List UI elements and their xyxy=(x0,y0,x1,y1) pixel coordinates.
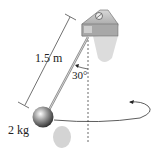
dimension-tick-bottom xyxy=(18,102,29,108)
angle-label: 30° xyxy=(72,70,87,81)
conical-pendulum-diagram: 1.5 m 30° 2 kg xyxy=(0,0,161,154)
ball-shadow xyxy=(53,126,71,148)
mount-shadow xyxy=(93,36,118,62)
pendulum-bob xyxy=(33,107,54,128)
path-arrow-icon xyxy=(129,100,134,104)
circular-path xyxy=(54,102,150,122)
length-label: 1.5 m xyxy=(35,52,62,64)
dimension-tick-top xyxy=(65,14,76,20)
mass-label: 2 kg xyxy=(8,124,29,136)
